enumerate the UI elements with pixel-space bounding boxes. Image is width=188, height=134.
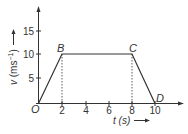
y-tick-15: 15: [23, 26, 35, 37]
y-tick-5: 5: [28, 73, 34, 84]
svg-text:v (ms−1): v (ms−1): [7, 49, 19, 85]
x-axis-label: t (s): [113, 115, 130, 126]
x-label-arrow-icon: [145, 119, 150, 123]
axes: [36, 6, 184, 106]
x-tick-4: 4: [83, 105, 89, 116]
velocity-time-chart: 15 10 5 2 4 6 8 10 O B C D t (s) v (ms−1…: [0, 0, 188, 134]
x-axis-arrow-icon: [178, 102, 184, 106]
y-label-arrow-icon: [12, 29, 16, 34]
point-label-c: C: [129, 42, 137, 54]
y-tick-10: 10: [23, 49, 35, 60]
y-axis-arrow-icon: [37, 6, 41, 12]
x-tick-6: 6: [106, 105, 112, 116]
point-label-b: B: [57, 42, 64, 54]
velocity-line: [39, 54, 156, 104]
point-label-o: O: [31, 103, 40, 115]
x-tick-2: 2: [59, 105, 65, 116]
dashed-guides: [62, 54, 132, 103]
y-axis-label: v (ms−1): [7, 29, 19, 85]
point-label-d: D: [156, 92, 164, 104]
x-tick-10: 10: [149, 105, 161, 116]
